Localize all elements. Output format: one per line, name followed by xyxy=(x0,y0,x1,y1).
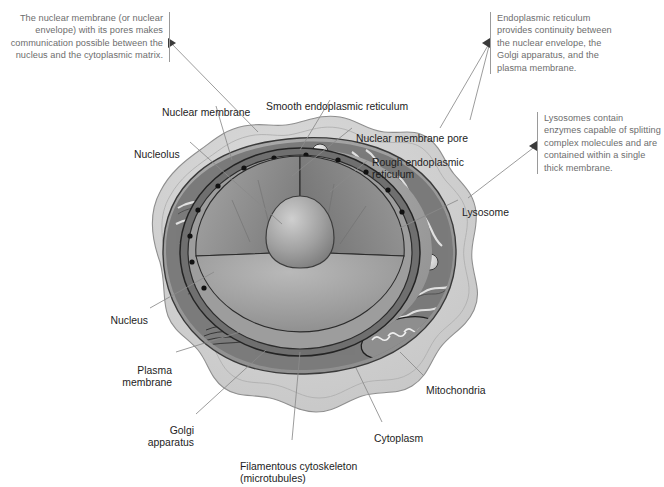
label-nucleolus: Nucleolus xyxy=(134,136,180,161)
label-nuclear-membrane-pore-text: Nuclear membrane pore xyxy=(356,133,468,144)
label-nuclear-membrane-text: Nuclear membrane xyxy=(162,107,250,118)
label-filamentous-cytoskeleton: Filamentous cytoskeleton (microtubules) xyxy=(240,448,357,486)
label-golgi-apparatus-text: Golgi apparatus xyxy=(148,425,194,449)
label-smooth-endoplasmic-reticulum: Smooth endoplasmic reticulum xyxy=(266,88,408,113)
label-smooth-endoplasmic-reticulum-text: Smooth endoplasmic reticulum xyxy=(266,101,408,112)
label-filamentous-cytoskeleton-text: Filamentous cytoskeleton (microtubules) xyxy=(240,461,357,485)
label-plasma-membrane-text: Plasma membrane xyxy=(122,365,172,389)
label-mitochondria-text: Mitochondria xyxy=(426,385,486,396)
label-lysosome: Lysosome xyxy=(462,194,509,219)
note-lysosome: Lysosomes contain enzymes capable of spl… xyxy=(537,112,662,174)
label-nuclear-membrane-pore: Nuclear membrane pore xyxy=(356,120,468,145)
note-lysosome-text: Lysosomes contain enzymes capable of spl… xyxy=(544,112,662,174)
label-cytoplasm: Cytoplasm xyxy=(374,420,423,445)
label-nucleolus-text: Nucleolus xyxy=(134,149,180,160)
note-nuclear-membrane-text: The nuclear membrane (or nuclear envelop… xyxy=(8,12,163,62)
label-mitochondria: Mitochondria xyxy=(426,372,486,397)
note-nuclear-membrane: The nuclear membrane (or nuclear envelop… xyxy=(8,12,170,62)
label-plasma-membrane: Plasma membrane xyxy=(74,352,172,390)
label-nucleus-text: Nucleus xyxy=(110,315,148,326)
cell-diagram-figure: The nuclear membrane (or nuclear envelop… xyxy=(0,0,664,487)
note-endoplasmic-reticulum: Endoplasmic reticulum provides continuit… xyxy=(490,12,622,74)
note-endoplasmic-reticulum-text: Endoplasmic reticulum provides continuit… xyxy=(497,12,622,74)
label-nucleus: Nucleus xyxy=(60,302,148,327)
label-rough-endoplasmic-reticulum-text: Rough endoplasmic reticulum xyxy=(372,157,464,181)
label-rough-endoplasmic-reticulum: Rough endoplasmic reticulum xyxy=(372,144,464,182)
label-nuclear-membrane: Nuclear membrane xyxy=(162,94,250,119)
label-golgi-apparatus: Golgi apparatus xyxy=(106,412,194,450)
label-lysosome-text: Lysosome xyxy=(462,207,509,218)
label-cytoplasm-text: Cytoplasm xyxy=(374,433,423,444)
